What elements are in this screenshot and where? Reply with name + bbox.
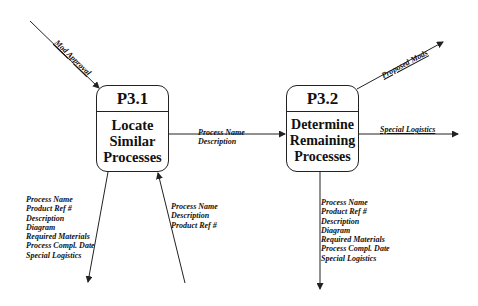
process-p3-2: P3.2 Determine Remaining Processes — [286, 85, 359, 172]
process-p3-1: P3.1 Locate Similar Processes — [96, 85, 169, 172]
process-id: P3.1 — [97, 86, 168, 112]
p31-in-up-label: Process Name Description Product Ref # — [171, 202, 218, 230]
process-name: Determine Remaining Processes — [287, 112, 358, 165]
p32-out-down-label: Process Name Product Ref # Description D… — [321, 198, 390, 263]
process-name: Locate Similar Processes — [97, 112, 168, 165]
special-logistics-label: Special Logistics — [380, 125, 435, 134]
p31-to-p32-label: Process Name Description — [198, 128, 245, 147]
flow-arrows — [0, 0, 478, 306]
process-id: P3.2 — [287, 86, 358, 112]
p31-out-down-label: Process Name Product Ref # Description D… — [26, 195, 95, 260]
